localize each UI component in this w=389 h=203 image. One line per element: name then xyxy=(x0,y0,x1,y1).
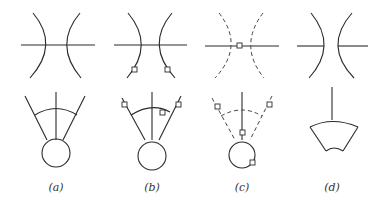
pick-point-marker xyxy=(237,43,242,48)
pick-point-marker xyxy=(132,67,137,72)
pick-point-marker xyxy=(250,160,255,165)
caption-b: (b) xyxy=(144,181,160,194)
pick-point-marker xyxy=(122,102,127,107)
pick-point-marker xyxy=(165,67,170,72)
panel-b-bottom xyxy=(122,92,181,170)
panel-b-top xyxy=(114,13,187,78)
panel-d-bottom xyxy=(310,87,358,151)
pick-point-marker xyxy=(160,110,165,115)
pick-point-marker xyxy=(267,102,272,107)
panel-c-top xyxy=(205,13,279,78)
pick-point-marker xyxy=(240,130,245,135)
caption-a: (a) xyxy=(48,181,63,194)
pick-point-marker xyxy=(176,102,181,107)
panel-c-bottom xyxy=(212,92,272,168)
panel-a-top xyxy=(21,13,95,78)
pick-point-marker xyxy=(215,104,220,109)
panel-a-bottom xyxy=(25,92,85,167)
caption-c: (c) xyxy=(235,181,250,194)
panel-d-top xyxy=(297,13,368,78)
caption-d: (d) xyxy=(324,181,340,194)
diagram-canvas xyxy=(0,0,389,203)
